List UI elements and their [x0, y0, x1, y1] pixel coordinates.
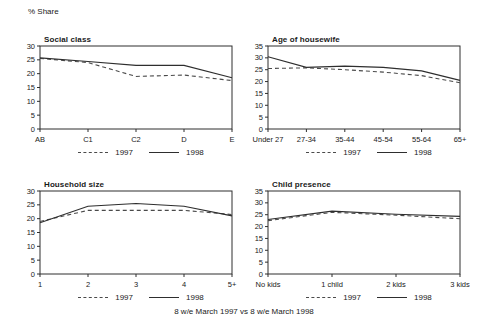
- x-tick-label: No kids: [255, 280, 280, 289]
- solid-line-sample: [149, 297, 179, 298]
- y-tick-label: 15: [27, 228, 35, 237]
- y-tick-label: 0: [31, 125, 35, 134]
- dashed-line-sample: [306, 297, 336, 298]
- dashed-line-sample: [78, 152, 108, 153]
- legend-label-1997: 1997: [343, 293, 361, 302]
- chart-title: Age of housewife: [234, 28, 470, 44]
- y-tick-label: 25: [27, 55, 35, 64]
- y-tick-label: 30: [27, 42, 35, 51]
- y-tick-label: 10: [27, 242, 35, 251]
- x-tick-label: C1: [83, 135, 93, 144]
- report-page: % Share Social class 051015202530ABC1C2D…: [0, 0, 488, 330]
- chart-legend: 1997 1998: [6, 146, 242, 158]
- plot-frame: [40, 46, 232, 129]
- y-tick-label: 5: [259, 258, 263, 267]
- series-line-1998: [40, 203, 232, 222]
- x-tick-label: Under 27: [253, 135, 284, 144]
- x-tick-label: 1: [38, 280, 42, 289]
- y-tick-label: 30: [27, 187, 35, 196]
- y-tick-label: 25: [255, 210, 263, 219]
- y-tick-label: 30: [255, 198, 263, 207]
- legend-label-1997: 1997: [343, 148, 361, 157]
- x-tick-label: 4: [182, 280, 186, 289]
- chart-title: Household size: [6, 173, 242, 189]
- household-size-chart: Household size 05101520253012345+ 1997 1…: [6, 173, 242, 303]
- y-tick-label: 5: [259, 113, 263, 122]
- y-tick-label: 15: [255, 234, 263, 243]
- report-caption: 8 w/e March 1997 vs 8 w/e March 1998: [0, 307, 488, 316]
- x-tick-label: 27-34: [297, 135, 316, 144]
- age-of-housewife-plot: 05101520253035Under 2727-3435-4445-5455-…: [234, 44, 470, 144]
- plot-frame: [268, 191, 460, 274]
- x-tick-label: 45-54: [374, 135, 393, 144]
- y-tick-label: 0: [31, 270, 35, 279]
- y-tick-label: 0: [259, 125, 263, 134]
- age-of-housewife-chart: Age of housewife 05101520253035Under 272…: [234, 28, 470, 158]
- child-presence-chart: Child presence 05101520253035No kids1 ch…: [234, 173, 470, 303]
- social-class-plot: 051015202530ABC1C2DE: [6, 44, 242, 144]
- x-tick-label: C2: [131, 135, 141, 144]
- x-tick-label: 2 kids: [386, 280, 406, 289]
- legend-label-1998: 1998: [186, 293, 204, 302]
- solid-line-sample: [377, 297, 407, 298]
- plot-frame: [268, 46, 460, 129]
- x-tick-label: AB: [35, 135, 45, 144]
- household-size-plot: 05101520253012345+: [6, 189, 242, 289]
- dashed-line-sample: [78, 297, 108, 298]
- chart-title: Child presence: [234, 173, 470, 189]
- x-tick-label: 1 child: [321, 280, 343, 289]
- x-tick-label: 35-44: [335, 135, 354, 144]
- x-tick-label: D: [181, 135, 187, 144]
- y-tick-label: 25: [27, 200, 35, 209]
- legend-label-1997: 1997: [115, 293, 133, 302]
- y-tick-label: 30: [255, 53, 263, 62]
- chart-title: Social class: [6, 28, 242, 44]
- x-tick-label: 3 kids: [450, 280, 470, 289]
- solid-line-sample: [377, 152, 407, 153]
- chart-legend: 1997 1998: [6, 291, 242, 303]
- legend-label-1997: 1997: [115, 148, 133, 157]
- y-tick-label: 20: [255, 222, 263, 231]
- x-tick-label: 3: [134, 280, 138, 289]
- legend-label-1998: 1998: [414, 148, 432, 157]
- x-tick-label: 65+: [454, 135, 467, 144]
- series-line-1997: [40, 58, 232, 80]
- child-presence-plot: 05101520253035No kids1 child2 kids3 kids: [234, 189, 470, 289]
- y-tick-label: 10: [255, 246, 263, 255]
- y-tick-label: 10: [255, 101, 263, 110]
- series-line-1997: [268, 212, 460, 220]
- dashed-line-sample: [306, 152, 336, 153]
- y-tick-label: 25: [255, 65, 263, 74]
- y-tick-label: 20: [255, 77, 263, 86]
- x-tick-label: 2: [86, 280, 90, 289]
- y-tick-label: 5: [31, 111, 35, 120]
- y-tick-label: 35: [255, 187, 263, 196]
- y-tick-label: 15: [255, 89, 263, 98]
- y-tick-label: 20: [27, 214, 35, 223]
- legend-label-1998: 1998: [186, 148, 204, 157]
- y-tick-label: 20: [27, 69, 35, 78]
- y-tick-label: 15: [27, 83, 35, 92]
- x-tick-label: 55-64: [412, 135, 431, 144]
- y-tick-label: 0: [259, 270, 263, 279]
- series-line-1997: [40, 210, 232, 221]
- social-class-chart: Social class 051015202530ABC1C2DE 1997 1…: [6, 28, 242, 158]
- y-axis-unit-label: % Share: [28, 7, 59, 16]
- series-line-1997: [268, 68, 460, 83]
- y-tick-label: 35: [255, 42, 263, 51]
- chart-legend: 1997 1998: [234, 291, 470, 303]
- y-tick-label: 10: [27, 97, 35, 106]
- chart-legend: 1997 1998: [234, 146, 470, 158]
- series-line-1998: [268, 211, 460, 219]
- y-tick-label: 5: [31, 256, 35, 265]
- solid-line-sample: [149, 152, 179, 153]
- legend-label-1998: 1998: [414, 293, 432, 302]
